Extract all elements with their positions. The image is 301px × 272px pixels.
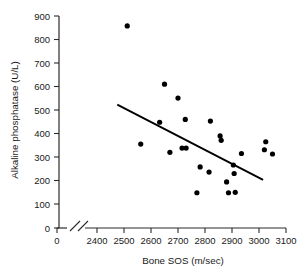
data-point: [262, 147, 267, 152]
y-tick-label-900: 900: [34, 11, 50, 22]
x-tick-label-3100: 3100: [275, 235, 296, 246]
x-tick-label-3000: 3000: [248, 235, 269, 246]
y-tick-label-600: 600: [34, 81, 50, 92]
data-point: [184, 146, 189, 151]
data-point: [224, 179, 229, 184]
y-tick-label-500: 500: [34, 105, 50, 116]
data-point: [233, 190, 238, 195]
x-tick-label-2700: 2700: [167, 235, 188, 246]
data-point: [218, 133, 223, 138]
x-tick-label-0: 0: [54, 235, 59, 246]
data-point: [219, 138, 224, 143]
y-tick-label-200: 200: [34, 175, 50, 186]
data-point: [226, 190, 231, 195]
data-point: [206, 169, 211, 174]
data-point: [194, 190, 199, 195]
data-point: [125, 23, 130, 28]
x-tick-label-2800: 2800: [194, 235, 215, 246]
data-point: [270, 151, 275, 156]
y-tick-label-300: 300: [34, 152, 50, 163]
plot-canvas: 900 800 700 600 500 400 300 200 100 0 0 …: [0, 0, 301, 272]
scatter-plot-figure: 900 800 700 600 500 400 300 200 100 0 0 …: [0, 0, 301, 272]
x-tick-label-2400: 2400: [86, 235, 107, 246]
x-tick-label-2900: 2900: [221, 235, 242, 246]
data-point: [232, 171, 237, 176]
data-point: [157, 120, 162, 125]
axis-break-slash-1: [70, 221, 80, 231]
x-tick-label-2500: 2500: [113, 235, 134, 246]
data-point: [162, 82, 167, 87]
data-point: [198, 164, 203, 169]
x-axis-title: Bone SOS (m/sec): [142, 255, 224, 266]
data-point: [208, 118, 213, 123]
y-tick-label-800: 800: [34, 34, 50, 45]
data-point: [138, 142, 143, 147]
y-tick-label-400: 400: [34, 128, 50, 139]
y-tick-label-100: 100: [34, 199, 50, 210]
y-tick-label-700: 700: [34, 58, 50, 69]
axis-break-slash-2: [78, 221, 88, 231]
y-tick-label-0: 0: [45, 223, 50, 234]
x-tick-label-2600: 2600: [140, 235, 161, 246]
data-point: [231, 162, 236, 167]
data-point: [263, 139, 268, 144]
data-points-group: [125, 23, 275, 195]
data-point: [183, 117, 188, 122]
data-point: [239, 151, 244, 156]
data-point: [175, 95, 180, 100]
y-axis-title: Alkaline phosphatase (U/L): [9, 61, 20, 179]
data-point: [167, 150, 172, 155]
